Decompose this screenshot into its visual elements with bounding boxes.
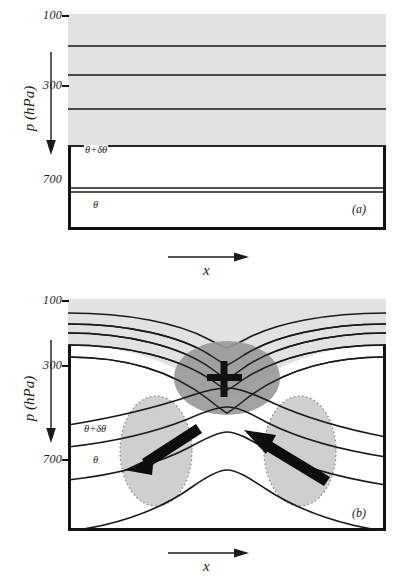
panel-a-p-axis-arrow	[44, 52, 58, 156]
panel-b-ytick-100: 100	[22, 293, 62, 308]
panel-b-theta-label: θ	[92, 455, 99, 466]
panel-b-plot	[68, 299, 386, 531]
panel-b-tickmark-700	[62, 459, 69, 461]
panel-b-p-axis-arrow	[44, 340, 58, 444]
panel-a	[68, 14, 386, 230]
panel-a-ytick-700: 700	[22, 172, 62, 187]
panel-b-p-axis-label: p (hPa)	[21, 364, 38, 434]
panel-b-theta-plus-delta-label: θ+δθ	[83, 424, 107, 435]
panel-a-theta-plus-delta-label: θ+δθ	[84, 145, 108, 156]
panel-a-letter: (a)	[352, 202, 366, 217]
panel-b	[68, 299, 386, 531]
panel-a-p-axis-label: p (hPa)	[21, 74, 38, 144]
panel-b-letter: (b)	[352, 506, 366, 521]
panel-a-ytick-100: 100	[22, 8, 62, 23]
panel-b-tickmark-300	[62, 365, 69, 367]
panel-b-x-axis-label: x	[203, 558, 210, 575]
panel-b-tickmark-100	[62, 300, 69, 302]
figure-root: 100 300 700 θ+δθ θ (a) p (hPa) x	[0, 0, 404, 577]
panel-a-x-axis-label: x	[203, 262, 210, 279]
panel-a-tickmark-300	[62, 85, 69, 87]
panel-a-theta-label: θ	[92, 200, 99, 211]
panel-a-lower-lines	[68, 14, 386, 230]
panel-a-tickmark-100	[62, 15, 69, 17]
panel-b-ytick-700: 700	[22, 452, 62, 467]
